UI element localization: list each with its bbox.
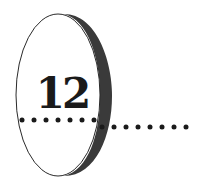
chapter-ellipse-icon <box>0 0 199 188</box>
dot-leader-outside <box>100 125 189 130</box>
chapter-number: 12 <box>34 76 90 112</box>
chapter-number-graphic: 12 <box>0 0 199 188</box>
